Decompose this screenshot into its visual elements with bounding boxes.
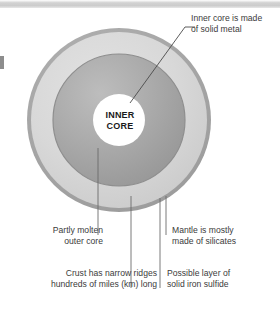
label-inner-core-line1: Inner core is made [191, 13, 262, 24]
inner-core-caption: INNER CORE [94, 110, 146, 132]
label-inner-core-line2: of solid metal [191, 24, 262, 35]
label-mantle: Mantle is mostly made of silicates [172, 225, 272, 248]
inner-core-caption-line1: INNER [94, 110, 146, 121]
label-iron-sulfide: Possible layer of solid iron sulfide [167, 268, 272, 291]
label-iron-sulfide-line1: Possible layer of [167, 268, 272, 279]
label-mantle-line1: Mantle is mostly [172, 225, 272, 236]
label-outer-core: Partly molten outer core [18, 225, 103, 248]
label-outer-core-line1: Partly molten [18, 225, 103, 236]
label-inner-core: Inner core is made of solid metal [191, 13, 262, 36]
earth-interior-figure: INNER CORE Inner core is made of solid m… [0, 0, 280, 310]
label-crust-line1: Crust has narrow ridges [10, 268, 157, 279]
label-iron-sulfide-line2: solid iron sulfide [167, 279, 272, 290]
label-crust: Crust has narrow ridges hundreds of mile… [10, 268, 157, 291]
label-mantle-line2: made of silicates [172, 236, 272, 247]
label-outer-core-line2: outer core [18, 236, 103, 247]
inner-core-caption-line2: CORE [94, 121, 146, 132]
earth-cross-section-svg [0, 0, 280, 310]
label-crust-line2: hundreds of miles (km) long [10, 279, 157, 290]
